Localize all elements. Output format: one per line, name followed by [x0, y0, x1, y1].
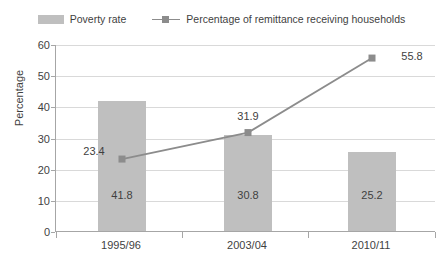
- line-path: [122, 58, 372, 159]
- y-tick-mark: [51, 232, 55, 233]
- y-tick-label: 40: [0, 101, 50, 113]
- legend-item-label: Percentage of remittance receiving house…: [186, 14, 405, 25]
- chart-legend: Poverty rate Percentage of remittance re…: [0, 8, 443, 30]
- x-tick-label-2010-11: 2010/11: [316, 240, 426, 251]
- data-point-marker[interactable]: [369, 55, 376, 62]
- x-tick-label-2003-04: 2003/04: [192, 240, 302, 251]
- y-tick-label: 50: [0, 70, 50, 82]
- legend-item-label: Poverty rate: [70, 14, 127, 25]
- point-value-label: 23.4: [64, 146, 124, 157]
- x-tick-label-1995-96: 1995/96: [66, 240, 176, 251]
- point-value-label: 31.9: [218, 111, 278, 122]
- line-series-remittance-households: [56, 45, 436, 232]
- y-tick-label: 0: [0, 226, 50, 238]
- x-axis: 1995/96 2003/04 2010/11: [55, 240, 435, 256]
- line-marker-icon: [152, 15, 180, 24]
- legend-item-poverty-rate: Poverty rate: [38, 14, 127, 25]
- y-tick-label: 30: [0, 133, 50, 145]
- data-point-marker[interactable]: [245, 129, 252, 136]
- x-tick-mark: [182, 232, 183, 238]
- y-tick-label: 10: [0, 195, 50, 207]
- x-tick-mark: [308, 232, 309, 238]
- y-tick-label: 20: [0, 164, 50, 176]
- point-value-label: 55.8: [382, 51, 442, 62]
- bar-swatch-icon: [38, 15, 64, 24]
- x-tick-mark: [435, 232, 436, 238]
- x-tick-mark: [56, 232, 57, 238]
- y-tick-label: 60: [0, 39, 50, 51]
- legend-item-remittance-households: Percentage of remittance receiving house…: [152, 14, 405, 25]
- plot-area: 41.8 30.8 25.2 23.4 31.9 55.8: [55, 45, 435, 232]
